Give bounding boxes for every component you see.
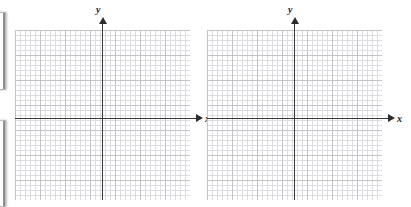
y-axis-line-2 xyxy=(294,30,295,200)
coordinate-plot-2: y x xyxy=(192,0,392,207)
y-axis-label-1: y xyxy=(96,5,100,15)
x-axis-arrow-icon-2 xyxy=(388,114,395,122)
y-axis-label-2: y xyxy=(288,5,292,15)
y-axis-line-1 xyxy=(102,30,103,200)
x-axis-label-2: x xyxy=(397,114,402,124)
coordinate-plot-1: y x xyxy=(0,0,200,207)
y-axis-arrow-icon-1 xyxy=(99,17,107,24)
y-axis-arrow-icon-2 xyxy=(291,17,299,24)
